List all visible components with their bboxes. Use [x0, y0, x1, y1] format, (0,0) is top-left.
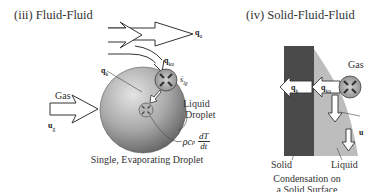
incoming-flow-arrow-icon — [108, 22, 142, 48]
dT-dt-fraction: dT dt — [198, 132, 210, 151]
q-ku-label-iv: qku — [321, 83, 331, 94]
u-g-subscript: g — [52, 126, 55, 132]
q-k-label-iv: qk — [291, 83, 298, 94]
q-k-label: qk — [101, 66, 108, 77]
u-g-label: ug — [48, 121, 55, 132]
panel-iii-caption: Single, Evaporating Droplet — [82, 154, 212, 165]
s-lg-label: ṡlg — [180, 75, 187, 86]
s-lg-subscript: lg — [183, 80, 187, 86]
storage-term-rho-cp: −ρc — [176, 136, 192, 147]
liquid-droplet-label-line2: Droplet — [185, 110, 216, 120]
liquid-droplet-label-line1: Liquid — [183, 99, 210, 109]
internal-source-icon — [139, 103, 153, 117]
q-ku-iv-subscript: ku — [325, 88, 331, 94]
panel-iv-caption: Condensation on a Solid Surface — [262, 173, 352, 192]
q-k-iv-subscript: k — [295, 88, 298, 94]
u-label-iv: u — [359, 128, 363, 137]
solid-wall — [284, 46, 314, 156]
panel-iv-title: (iv) Solid-Fluid-Fluid — [246, 8, 355, 23]
gas-label-iv: Gas — [348, 60, 364, 70]
evaporation-source-icon — [155, 69, 177, 91]
q-u-label: qu — [195, 28, 202, 39]
q-ku-label: qku — [164, 56, 174, 67]
q-ku-subscript: ku — [168, 61, 174, 67]
q-k-subscript: k — [105, 71, 108, 77]
storage-term-label: −ρcp dT dt — [176, 132, 210, 151]
liquid-label: Liquid — [331, 160, 358, 170]
condensation-source-icon — [339, 76, 361, 98]
gas-label-iii: Gas — [55, 91, 71, 101]
fraction-denominator: dt — [200, 142, 207, 151]
panel-iv-caption-line2: a Solid Surface — [262, 184, 352, 192]
storage-term-subscript: p — [192, 139, 195, 145]
solid-label: Solid — [271, 160, 292, 170]
panel-iv-caption-line1: Condensation on — [262, 173, 352, 184]
q-u-subscript: u — [199, 33, 202, 39]
